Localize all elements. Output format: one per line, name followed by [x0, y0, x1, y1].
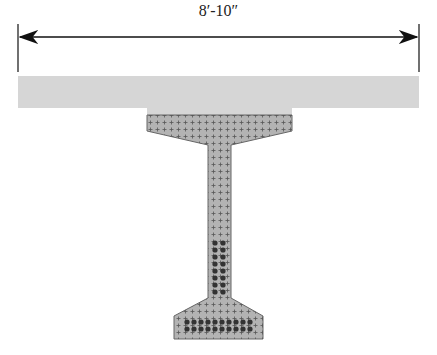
haunch: [147, 108, 292, 115]
deck-slab: [18, 76, 419, 108]
i-girder: [147, 115, 292, 339]
girder-diagram: [0, 0, 437, 355]
dimension-line: [18, 24, 419, 72]
